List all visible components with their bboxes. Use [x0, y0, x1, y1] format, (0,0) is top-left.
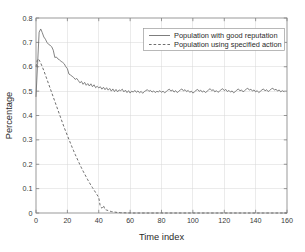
y-axis-label: Percentage: [4, 92, 14, 140]
x-tick-label: 20: [63, 216, 71, 225]
x-tick-label: 100: [187, 216, 199, 225]
legend-label-0: Population with good reputation: [174, 31, 278, 40]
legend-label-1: Population using specified action: [174, 40, 282, 49]
chart-canvas: 020406080100120140160 00.10.20.30.40.50.…: [0, 0, 305, 252]
x-tick-labels: 020406080100120140160: [34, 216, 293, 225]
y-tick-label: 0.7: [23, 38, 33, 47]
x-tick-label: 140: [250, 216, 262, 225]
x-tick-label: 160: [281, 216, 293, 225]
y-tick-label: 0.6: [23, 62, 33, 71]
x-tick-label: 80: [158, 216, 166, 225]
x-tick-label: 120: [218, 216, 230, 225]
y-tick-label: 0.5: [23, 87, 33, 96]
chart-legend: Population with good reputation Populati…: [144, 29, 285, 51]
y-tick-labels: 00.10.20.30.40.50.60.70.8: [23, 14, 33, 218]
y-tick-label: 0.4: [23, 111, 33, 120]
chart-figure: 020406080100120140160 00.10.20.30.40.50.…: [0, 0, 305, 252]
y-tick-label: 0.2: [23, 160, 33, 169]
x-tick-label: 0: [34, 216, 38, 225]
x-tick-label: 60: [126, 216, 134, 225]
x-axis-label: Time index: [139, 232, 184, 242]
y-tick-label: 0.8: [23, 14, 33, 23]
x-tick-label: 40: [95, 216, 103, 225]
y-tick-label: 0.3: [23, 135, 33, 144]
y-tick-label: 0: [29, 209, 33, 218]
y-tick-label: 0.1: [23, 184, 33, 193]
